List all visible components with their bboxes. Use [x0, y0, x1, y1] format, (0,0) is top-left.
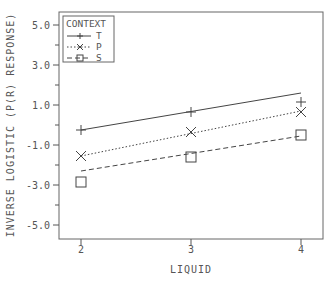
x-axis: 234: [78, 239, 304, 255]
y-axis: 5.03.01.0-1.0-3.0-5.0: [26, 20, 59, 231]
y-tick-label: -5.0: [26, 220, 50, 231]
series-T: [76, 93, 306, 135]
square-marker-icon: [296, 130, 306, 140]
y-tick-label: 3.0: [32, 60, 50, 71]
y-tick-label: -1.0: [26, 140, 50, 151]
legend-label: T: [96, 30, 102, 41]
square-marker-icon: [76, 177, 86, 187]
y-tick-label: 5.0: [32, 20, 50, 31]
chart: 5.03.01.0-1.0-3.0-5.0 234 LIQUID INVERSE…: [0, 0, 335, 283]
legend: CONTEXT TPS: [63, 16, 114, 63]
legend-label: S: [96, 52, 102, 63]
legend-label: P: [96, 41, 102, 52]
square-marker-icon: [186, 152, 196, 162]
x-tick-label: 2: [78, 244, 84, 255]
series-layer: [76, 93, 306, 187]
legend-title: CONTEXT: [66, 18, 106, 29]
y-tick-label: -3.0: [26, 180, 50, 191]
x-tick-label: 4: [298, 244, 304, 255]
x-axis-label: LIQUID: [170, 264, 212, 275]
series-S: [76, 130, 306, 187]
y-tick-label: 1.0: [32, 100, 50, 111]
fitted-line: [81, 136, 301, 171]
fitted-line: [81, 111, 301, 156]
x-tick-label: 3: [188, 244, 194, 255]
y-axis-label: INVERSE LOGISTIC (P(R) RESPONSE): [5, 13, 16, 238]
